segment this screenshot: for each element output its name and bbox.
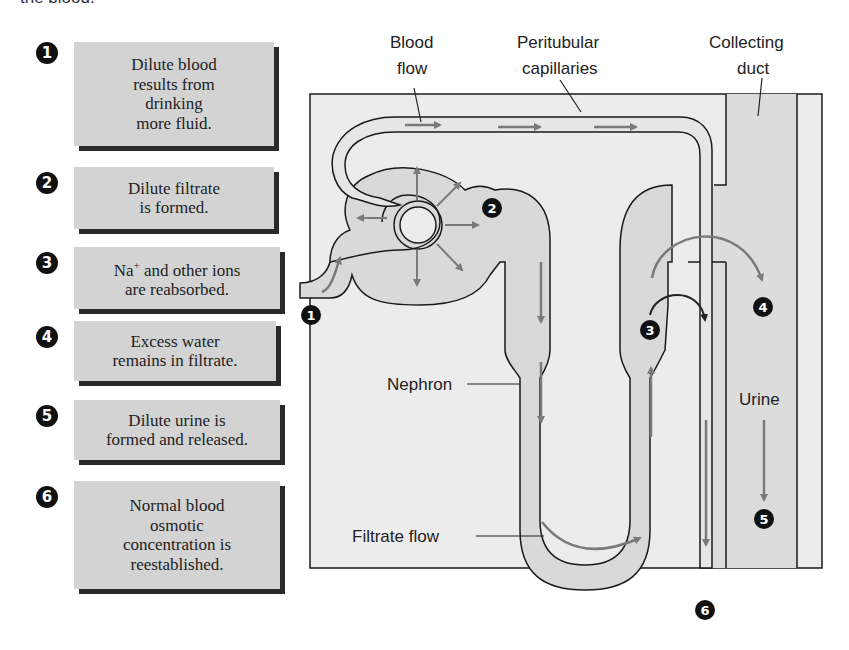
marker-3: 3: [640, 320, 660, 340]
marker-5: 5: [754, 509, 774, 529]
label-nephron: Nephron: [387, 375, 452, 394]
svg-text:4: 4: [758, 300, 767, 315]
svg-text:2: 2: [487, 201, 496, 216]
label-urine: Urine: [739, 390, 780, 409]
label-filtrate-flow: Filtrate flow: [352, 527, 440, 546]
marker-2: 2: [482, 198, 502, 218]
svg-text:5: 5: [759, 512, 768, 527]
label-collecting: Collecting: [709, 33, 784, 52]
label-blood-flow-2: flow: [397, 59, 428, 78]
label-blood-flow: Blood: [390, 33, 433, 52]
label-peritubular-2: capillaries: [522, 59, 598, 78]
label-peritubular: Peritubular: [517, 33, 600, 52]
svg-text:1: 1: [306, 308, 315, 323]
svg-text:3: 3: [645, 323, 654, 338]
marker-6: 6: [695, 600, 715, 620]
marker-1: 1: [301, 305, 321, 325]
label-collecting-2: duct: [737, 59, 769, 78]
svg-text:6: 6: [700, 603, 709, 618]
nephron-diagram: Blood flow Peritubular capillaries Colle…: [0, 0, 849, 650]
marker-4: 4: [753, 297, 773, 317]
